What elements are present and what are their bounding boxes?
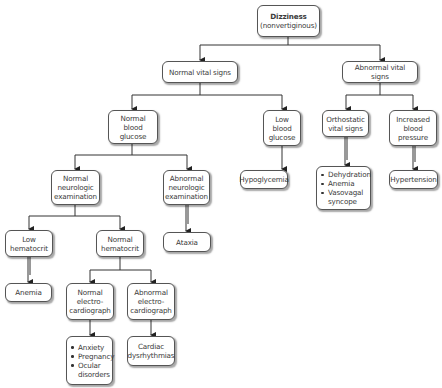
- node-abnormal-electrocardiograph: Abnormal electro-cardiograph: [127, 283, 175, 320]
- node-label: Ataxia: [176, 238, 198, 247]
- node-label: Low hematocrit: [8, 235, 50, 253]
- node-cardiac-dysrhythmias: Cardiac dysrhythmias: [127, 336, 175, 366]
- node-label: Anemia: [15, 288, 41, 297]
- node-orthostatic-vital-signs: Orthostatic vital signs: [322, 110, 369, 137]
- node-label: Increased blood pressure: [392, 115, 434, 142]
- node-low-hematocrit: Low hematocrit: [5, 230, 53, 257]
- node-normal-neurologic-examination: Normal neurologic examination: [51, 170, 100, 205]
- node-label: Hypoglycemia: [239, 175, 288, 184]
- node-dizziness: Dizziness (nonvertiginous): [257, 5, 320, 37]
- node-label: Normal electro-cardiograph: [69, 288, 111, 315]
- node-label: Normal blood glucose: [111, 114, 155, 141]
- node-abnormal-neurologic-examination: Abnormal neurologic examination: [163, 170, 210, 205]
- node-anemia: Anemia: [5, 283, 52, 302]
- node-label: Normal neurologic examination: [54, 174, 97, 201]
- list-item: Pregnancy: [78, 352, 114, 361]
- list-item: Dehydration: [328, 170, 371, 179]
- node-label: Abnormal neurologic examination: [165, 174, 208, 201]
- node-low-blood-glucose: Low blood glucose: [263, 110, 301, 146]
- list-item: Anemia: [328, 179, 371, 188]
- node-normal-vital-signs: Normal vital signs: [162, 61, 238, 83]
- node-normal-electrocardiograph: Normal electro-cardiograph: [66, 283, 114, 320]
- list-item: Ocular disorders: [78, 361, 114, 379]
- node-label: Abnormal vital signs: [345, 63, 415, 81]
- list-item: Anxiety: [78, 343, 114, 352]
- node-label: Orthostatic vital signs: [325, 115, 366, 133]
- node-label: Hypertension: [390, 175, 436, 184]
- normal-ecg-causes-list: Anxiety Pregnancy Ocular disorders: [69, 343, 114, 379]
- node-label: Normal vital signs: [169, 68, 231, 77]
- root-subtitle: (nonvertiginous): [260, 21, 317, 30]
- node-label: Low blood glucose: [266, 115, 298, 142]
- node-ataxia: Ataxia: [163, 232, 211, 252]
- dizziness-flowchart: Dizziness (nonvertiginous) Normal vital …: [0, 0, 442, 388]
- node-abnormal-vital-signs: Abnormal vital signs: [342, 61, 418, 83]
- list-item: Vasovagal syncope: [328, 188, 371, 206]
- node-label: Normal hematocrit: [99, 235, 141, 253]
- node-hypertension: Hypertension: [389, 170, 438, 189]
- node-orthostatic-causes: Dehydration Anemia Vasovagal syncope: [316, 166, 371, 210]
- node-normal-hematocrit: Normal hematocrit: [96, 230, 144, 257]
- node-label: Cardiac dysrhythmias: [128, 342, 175, 360]
- orthostatic-causes-list: Dehydration Anemia Vasovagal syncope: [319, 170, 371, 206]
- node-hypoglycemia: Hypoglycemia: [240, 170, 288, 189]
- node-normal-blood-glucose: Normal blood glucose: [108, 110, 158, 144]
- root-title: Dizziness: [260, 12, 317, 21]
- node-increased-blood-pressure: Increased blood pressure: [389, 110, 437, 146]
- node-label: Abnormal electro-cardiograph: [130, 288, 172, 315]
- node-normal-ecg-causes: Anxiety Pregnancy Ocular disorders: [66, 336, 113, 385]
